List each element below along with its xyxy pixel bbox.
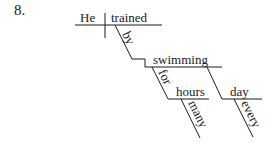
word-subject: He	[80, 10, 95, 25]
word-preposition-for: for	[155, 67, 175, 88]
adverbial-slant-day	[207, 67, 222, 99]
word-verb: trained	[111, 10, 148, 25]
word-gerund: swimming	[153, 52, 208, 67]
word-many: many	[185, 98, 211, 131]
word-preposition-by: by	[119, 29, 138, 48]
word-every: every	[238, 98, 264, 131]
word-day: day	[230, 84, 249, 99]
word-hours: hours	[176, 84, 205, 99]
sentence-diagram: He trained by swimming for hours many da…	[0, 0, 275, 146]
